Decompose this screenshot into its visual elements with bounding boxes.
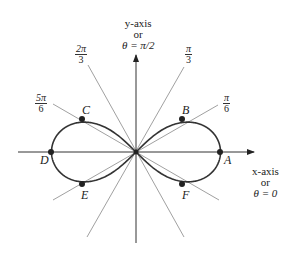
point-label-e: E (81, 190, 88, 201)
denominator: 3 (186, 55, 191, 65)
lemniscate-diagram: y-axis or θ = π/2 x-axis or θ = 0 2π 3 π… (0, 0, 295, 255)
angle-label-pi-6: π 6 (223, 93, 230, 114)
denominator: 6 (224, 104, 229, 114)
y-axis-theta: θ = π/2 (122, 40, 154, 51)
point-label-d: D (40, 155, 49, 166)
angle-label-5pi-6: 5π 6 (35, 93, 47, 114)
x-axis-label: x-axis or θ = 0 (252, 166, 279, 199)
angle-label-2pi-3: 2π 3 (75, 44, 87, 65)
point-label-c: C (82, 105, 90, 116)
denominator: 6 (39, 104, 44, 114)
y-axis-label: y-axis or θ = π/2 (122, 18, 154, 51)
denominator: 3 (79, 55, 84, 65)
point-label-a: A (224, 155, 231, 166)
point-label-f: F (182, 190, 189, 201)
point-label-b: B (182, 105, 189, 116)
angle-label-pi-3: π 3 (185, 44, 192, 65)
x-axis-theta: θ = 0 (252, 188, 279, 199)
